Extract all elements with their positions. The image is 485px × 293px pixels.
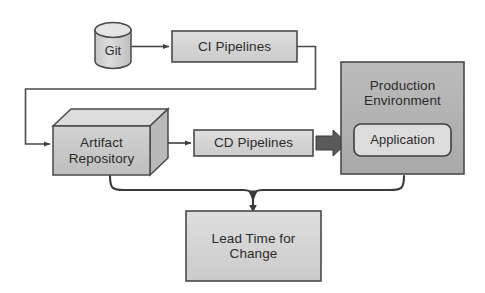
diagram-shapes-layer [0,0,485,293]
diagram-canvas: Git CI Pipelines Artifact Repository CD … [0,0,485,293]
lead-time-for-change-shape[interactable] [186,211,321,281]
ci-pipelines-shape[interactable] [172,31,297,62]
git-repository-shape[interactable] [95,23,131,69]
application-shape[interactable] [354,124,451,156]
connector-span-brace-to-lead-time [110,176,404,213]
production-environment-shape[interactable] [341,62,464,174]
cd-pipelines-shape[interactable] [194,130,313,156]
artifact-repository-shape[interactable] [53,109,168,175]
